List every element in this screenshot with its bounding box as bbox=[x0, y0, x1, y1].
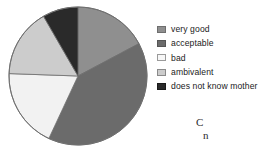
legend-item-acceptable[interactable]: acceptable bbox=[157, 36, 268, 50]
legend-swatch-bad bbox=[157, 54, 166, 61]
chart-legend: very good acceptable bad ambivalent does… bbox=[157, 22, 268, 94]
caption-line-2: n bbox=[196, 129, 268, 142]
legend-label-acceptable: acceptable bbox=[171, 39, 214, 48]
legend-swatch-acceptable bbox=[157, 40, 166, 47]
legend-swatch-ambivalent bbox=[157, 69, 166, 76]
legend-swatch-does-not-know-mother bbox=[157, 83, 166, 90]
legend-label-very-good: very good bbox=[171, 25, 210, 34]
legend-item-ambivalent[interactable]: ambivalent bbox=[157, 65, 268, 79]
pie-chart-figure: very good acceptable bad ambivalent does… bbox=[0, 0, 268, 153]
figure-caption: C n bbox=[196, 116, 268, 153]
legend-swatch-very-good bbox=[157, 26, 166, 33]
pie-chart-svg bbox=[0, 0, 156, 153]
pie-slice-group bbox=[9, 7, 147, 145]
pie-chart-plot-area bbox=[0, 0, 156, 153]
legend-label-ambivalent: ambivalent bbox=[171, 68, 214, 77]
legend-label-does-not-know-mother: does not know mother bbox=[171, 82, 258, 91]
caption-line-1: C bbox=[196, 116, 268, 129]
legend-label-bad: bad bbox=[171, 54, 186, 63]
legend-item-does-not-know-mother[interactable]: does not know mother bbox=[157, 80, 268, 94]
legend-item-bad[interactable]: bad bbox=[157, 51, 268, 65]
legend-item-very-good[interactable]: very good bbox=[157, 22, 268, 36]
